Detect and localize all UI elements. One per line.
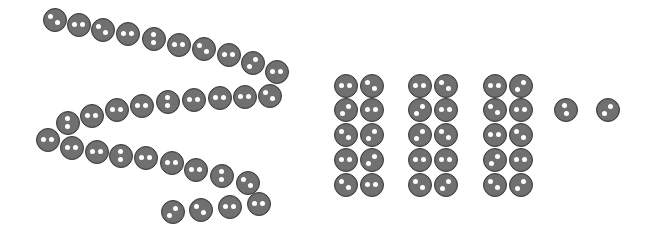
chain-button	[160, 151, 184, 175]
chain-button	[265, 60, 289, 84]
chain-button	[208, 86, 232, 110]
chain-button	[189, 198, 213, 222]
chain-button	[36, 128, 60, 152]
button-hole	[72, 22, 77, 27]
button-hole	[562, 103, 567, 108]
ten-group-button	[483, 173, 507, 197]
ten-group-button	[509, 173, 533, 197]
button-hole	[173, 206, 178, 211]
button-hole	[495, 185, 500, 190]
button-hole	[413, 179, 418, 184]
button-hole	[366, 136, 371, 141]
chain-button	[184, 158, 208, 182]
chain-button	[80, 104, 104, 128]
button-hole	[366, 161, 371, 166]
ten-group-button	[334, 123, 358, 147]
chain-button	[247, 192, 271, 216]
chain-button	[109, 144, 133, 168]
chain-button	[258, 84, 282, 108]
ten-group-button	[408, 173, 432, 197]
button-hole	[446, 86, 451, 91]
button-hole	[521, 179, 526, 184]
button-hole	[495, 110, 500, 115]
chain-button	[116, 22, 140, 46]
ten-group-button	[509, 98, 533, 122]
button-hole	[129, 31, 134, 36]
button-hole	[515, 87, 520, 92]
button-hole	[65, 145, 70, 150]
ten-group-button	[434, 123, 458, 147]
button-hole	[172, 42, 177, 47]
ten-group-button	[408, 148, 432, 172]
button-hole	[346, 185, 351, 190]
chain-button	[134, 146, 158, 170]
button-hole	[263, 90, 268, 95]
button-hole	[253, 57, 258, 62]
ten-group-button	[360, 123, 384, 147]
button-hole	[204, 49, 209, 54]
chain-button	[60, 136, 84, 160]
button-hole	[440, 186, 445, 191]
button-hole	[247, 64, 252, 69]
chain-button	[105, 98, 129, 122]
button-hole	[187, 97, 192, 102]
button-hole	[222, 52, 227, 57]
chain-button	[43, 8, 67, 32]
button-hole	[270, 96, 275, 101]
button-hole	[248, 183, 253, 188]
chain-button	[182, 88, 206, 112]
button-hole	[194, 204, 199, 209]
single-button	[554, 98, 578, 122]
button-hole	[135, 103, 140, 108]
chain-button	[233, 85, 257, 109]
button-hole	[118, 157, 123, 162]
ten-group-button	[509, 123, 533, 147]
button-hole	[121, 31, 126, 36]
button-hole	[489, 161, 494, 166]
ten-group-button	[360, 74, 384, 98]
button-hole	[339, 179, 344, 184]
ten-group-button	[334, 74, 358, 98]
chain-button	[167, 33, 191, 57]
button-hole	[197, 167, 202, 172]
button-hole	[602, 111, 607, 116]
button-hole	[339, 129, 344, 134]
button-hole	[231, 204, 236, 209]
button-hole	[85, 113, 90, 118]
button-hole	[521, 80, 526, 85]
button-hole	[270, 69, 275, 74]
button-hole	[278, 69, 283, 74]
button-hole	[173, 160, 178, 165]
button-hole	[195, 97, 200, 102]
ten-group-button	[434, 148, 458, 172]
button-hole	[230, 52, 235, 57]
button-hole	[65, 116, 70, 121]
chain-button	[56, 111, 80, 135]
button-hole	[488, 104, 493, 109]
button-hole	[439, 129, 444, 134]
button-hole	[373, 107, 378, 112]
chain-button	[130, 94, 154, 118]
button-hole	[219, 169, 224, 174]
button-hole	[488, 83, 493, 88]
button-hole	[340, 111, 345, 116]
button-hole	[151, 40, 156, 45]
button-hole	[93, 113, 98, 118]
chain-button	[161, 200, 185, 224]
ten-group-button	[408, 123, 432, 147]
button-hole	[90, 149, 95, 154]
ten-group-button	[483, 74, 507, 98]
button-hole	[80, 22, 85, 27]
button-hole	[347, 83, 352, 88]
ten-group-button	[360, 98, 384, 122]
button-hole	[521, 135, 526, 140]
button-hole	[73, 145, 78, 150]
button-hole	[180, 42, 185, 47]
button-hole	[373, 182, 378, 187]
button-hole	[372, 129, 377, 134]
button-hole	[197, 43, 202, 48]
button-hole	[238, 94, 243, 99]
button-hole	[55, 20, 60, 25]
button-hole	[447, 157, 452, 162]
ten-group-button	[360, 173, 384, 197]
